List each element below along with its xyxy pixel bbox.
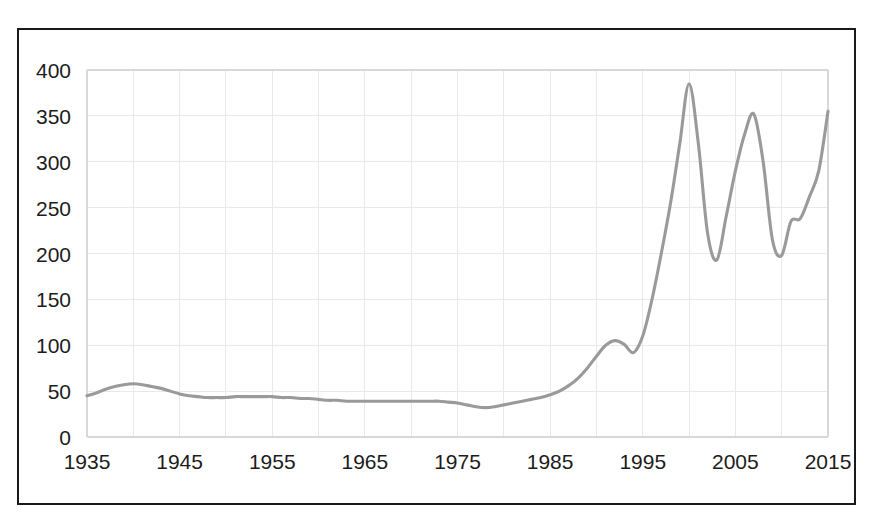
x-axis-tick-label: 1975 [434, 450, 481, 473]
x-axis-tick-label: 1955 [249, 450, 296, 473]
x-axis-tick-label: 1945 [156, 450, 203, 473]
x-axis-tick-label: 1985 [527, 450, 574, 473]
x-axis-tick-label: 2005 [712, 450, 759, 473]
y-axis-tick-label: 250 [36, 197, 71, 220]
y-axis-tick-label: 350 [36, 105, 71, 128]
chart-figure: 050100150200250300350400 193519451955196… [0, 0, 870, 528]
y-axis-tick-label: 200 [36, 243, 71, 266]
y-axis-tick-label: 300 [36, 151, 71, 174]
y-axis-tick-label: 50 [48, 380, 71, 403]
y-axis-tick-label: 150 [36, 288, 71, 311]
y-axis-tick-label: 400 [36, 59, 71, 82]
line-chart-canvas: 050100150200250300350400 193519451955196… [0, 0, 870, 528]
y-axis-tick-label: 0 [59, 426, 71, 449]
x-axis-tick-labels: 193519451955196519751985199520052015 [64, 450, 852, 473]
x-axis-tick-label: 1965 [342, 450, 389, 473]
x-axis-tick-label: 1995 [619, 450, 666, 473]
x-axis-tick-label: 1935 [64, 450, 111, 473]
gridlines-group [87, 70, 828, 437]
y-axis-tick-labels: 050100150200250300350400 [36, 59, 71, 449]
y-axis-tick-label: 100 [36, 334, 71, 357]
x-axis-tick-label: 2015 [805, 450, 852, 473]
